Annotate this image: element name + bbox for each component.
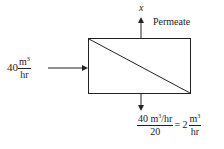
retentate-result-fraction: m3 hr <box>189 114 202 137</box>
permeate-variable: x <box>139 3 143 13</box>
membrane-diagonal <box>89 39 190 93</box>
inlet-arrow <box>48 65 88 71</box>
inlet-flow-label: 40 m3 hr <box>7 57 31 80</box>
inlet-value: 40 <box>7 61 18 73</box>
permeate-label: Permeate <box>153 17 190 27</box>
retentate-flow-label: 40 m3/hr 20 = 2 m3 hr <box>137 114 201 137</box>
permeate-arrow <box>138 17 144 38</box>
retentate-arrow <box>138 94 144 111</box>
retentate-calc-fraction: 40 m3/hr 20 <box>137 114 173 137</box>
retentate-equals: = 2 <box>174 119 187 130</box>
inlet-unit-fraction: m3 hr <box>18 57 31 80</box>
